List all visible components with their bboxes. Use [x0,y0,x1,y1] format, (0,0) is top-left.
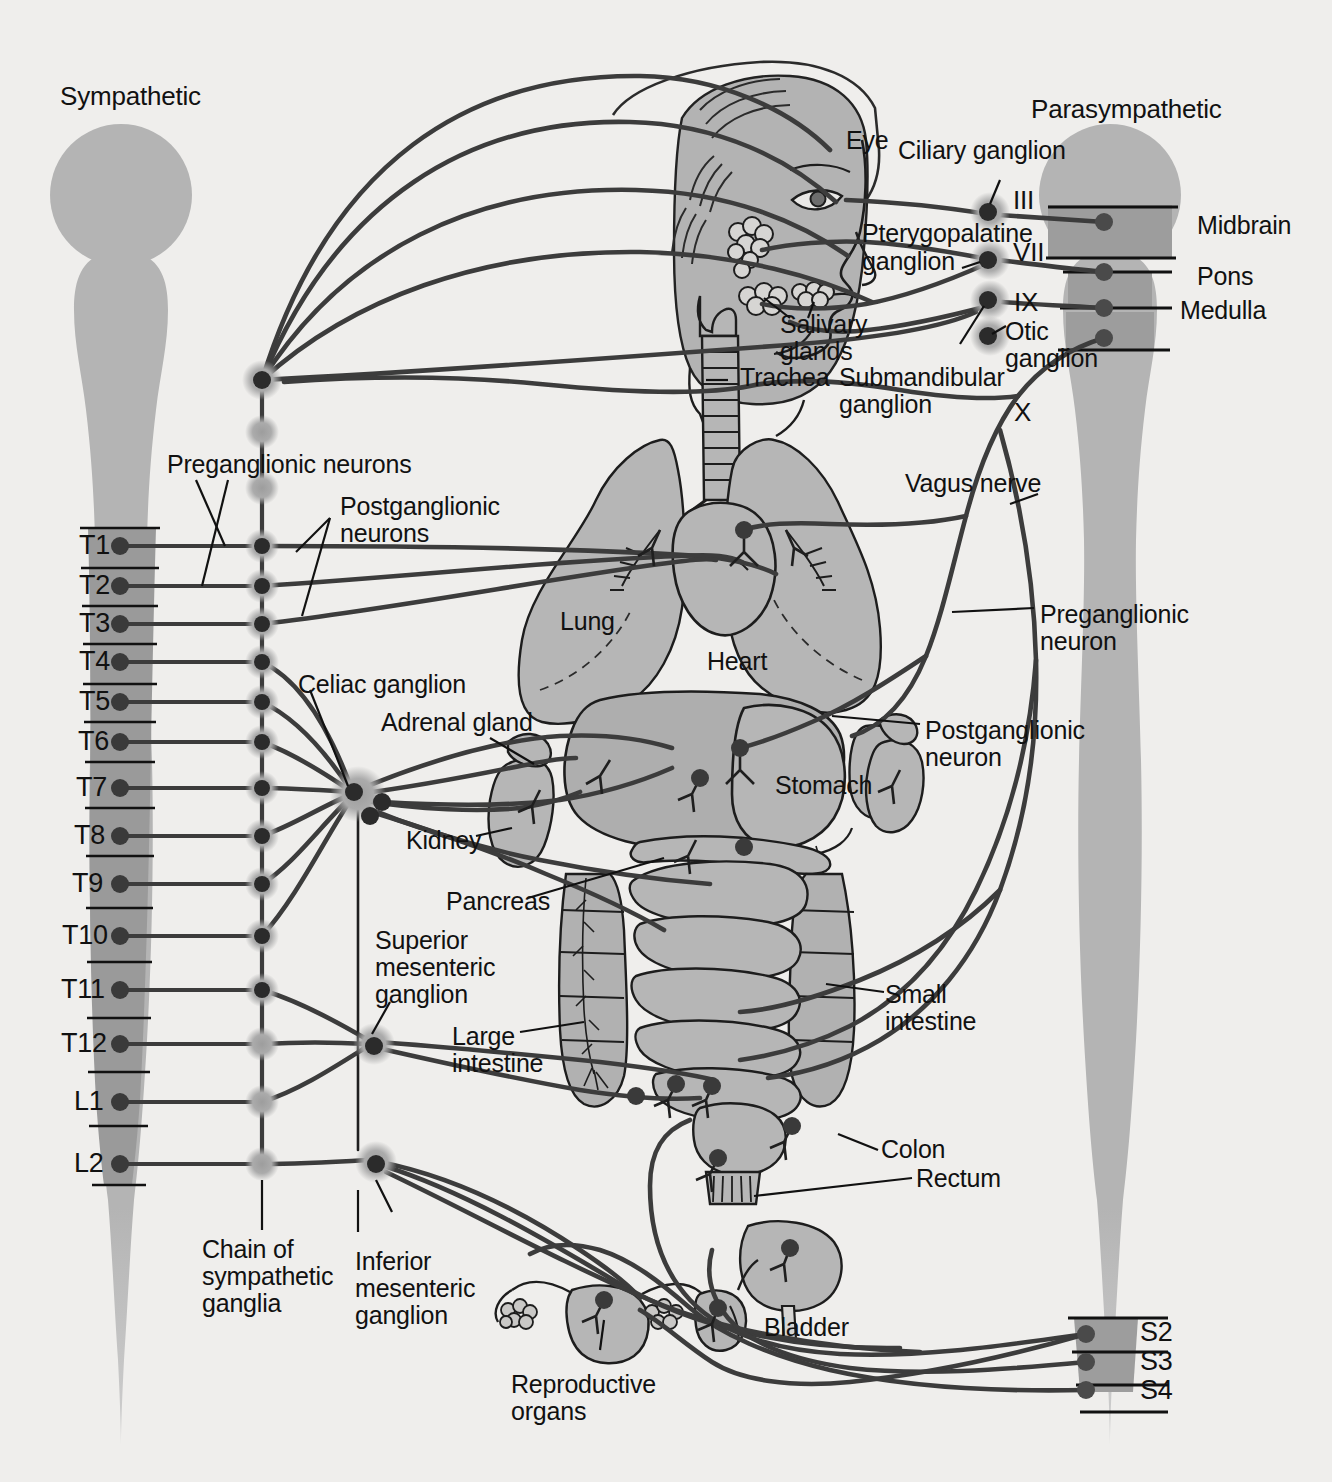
label-vagus-nerve: Vagus nerve [905,469,1041,497]
label-segment-l1: L1 [74,1087,104,1115]
label-preganglionic-neurons: Preganglionic neurons [167,450,412,478]
label-chain-of-sympathetic-ganglia-line1: Chain of [202,1235,294,1263]
label-otic-ganglion: ganglion [1005,344,1098,372]
label-cranial-nerve-x: X [1014,398,1031,426]
sympathetic-title: Sympathetic [60,82,201,110]
label-postganglionic-neuron-line1: Postganglionic [925,716,1085,744]
label-inferior-mesenteric-line3: ganglion [355,1301,448,1329]
label-segment-t11: T11 [61,975,105,1003]
label-eye: Eye [846,126,888,154]
parasympathetic-title: Parasympathetic [1031,95,1222,123]
label-ciliary-ganglion: Ciliary ganglion [898,136,1066,164]
label-salivary: Salivary [780,310,867,338]
label-salivary-glands: glands [780,337,852,365]
label-segment-t8: T8 [74,821,105,849]
label-submandibular-ganglion: ganglion [839,390,932,418]
parasympathetic-sacral [530,1120,1086,1390]
label-stomach: Stomach [775,771,872,799]
label-large-intestine-line1: Large [452,1022,515,1050]
label-adrenal-gland: Adrenal gland [381,708,533,736]
label-inferior-mesenteric-line2: mesenteric [355,1274,475,1302]
label-lung: Lung [560,607,615,635]
label-superior-mesenteric-line3: ganglion [375,980,468,1008]
label-chain-of-sympathetic-ganglia-line3: ganglia [202,1289,281,1317]
label-segment-l2: L2 [74,1149,104,1177]
label-bladder: Bladder [764,1313,849,1341]
label-kidney: Kidney [406,826,481,854]
label-cranial-nerve-iii: III [1013,186,1034,214]
label-preganglionic-neuron-line1: Preganglionic [1040,600,1189,628]
label-segment-t1: T1 [79,531,110,559]
label-pterygopalatine-ganglion: ganglion [862,247,955,275]
label-segment-t10: T10 [62,921,108,949]
autonomic-nervous-system-diagram: Sympathetic Parasympathetic Midbrain Pon… [0,0,1332,1482]
label-segment-t6: T6 [78,727,109,755]
label-medulla: Medulla [1180,296,1266,324]
label-chain-of-sympathetic-ganglia-line2: sympathetic [202,1262,333,1290]
label-reproductive-organs-line1: Reproductive [511,1370,656,1398]
label-segment-t2: T2 [79,571,110,599]
label-segment-t5: T5 [79,687,110,715]
label-segment-t9: T9 [72,869,103,897]
label-segment-s3: S3 [1140,1347,1173,1375]
label-segment-s4: S4 [1140,1376,1173,1404]
sympathetic-thoracic-fibers [262,546,776,624]
label-colon: Colon [881,1135,945,1163]
superior-mesenteric-outflow [376,1042,714,1099]
label-superior-mesenteric-line1: Superior [375,926,468,954]
label-small-intestine-line1: Small [885,980,947,1008]
label-large-intestine-line2: intestine [452,1049,543,1077]
label-rectum: Rectum [916,1164,1001,1192]
label-heart: Heart [707,647,767,675]
label-pons: Pons [1197,262,1253,290]
label-preganglionic-neuron-line2: neuron [1040,627,1117,655]
preganglionic-rami [120,546,256,1164]
label-celiac-ganglion: Celiac ganglion [298,670,466,698]
label-segment-t3: T3 [79,609,110,637]
label-small-intestine-line2: intestine [885,1007,976,1035]
label-otic: Otic [1005,317,1049,345]
label-pancreas: Pancreas [446,887,550,915]
label-submandibular: Submandibular [839,363,1005,391]
nerve-pathways [0,0,1332,1482]
label-postganglionic-neuron-line2: neuron [925,743,1002,771]
label-reproductive-organs-line2: organs [511,1397,586,1425]
label-segment-t12: T12 [61,1029,107,1057]
label-segment-t7: T7 [76,773,107,801]
label-trachea: Trachea [740,363,829,391]
label-superior-mesenteric-line2: mesenteric [375,953,495,981]
label-midbrain: Midbrain [1197,211,1291,239]
label-postganglionic-neurons-line2: neurons [340,519,429,547]
label-cranial-nerve-ix: IX [1014,288,1038,316]
label-postganglionic-neurons-line1: Postganglionic [340,492,500,520]
label-segment-t4: T4 [79,647,110,675]
label-inferior-mesenteric-line1: Inferior [355,1247,431,1275]
label-pterygopalatine: Pterygopalatine [862,219,1033,247]
label-segment-s2: S2 [1140,1318,1173,1346]
